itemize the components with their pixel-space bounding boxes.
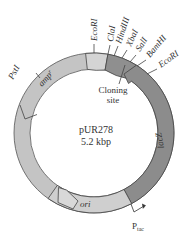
ori-label: ori <box>80 199 91 209</box>
ecori-clai-segment <box>86 53 108 70</box>
ecori-2-tick <box>147 69 157 74</box>
bamhi-tick <box>137 60 146 66</box>
cloning-site-label-line1: Cloning <box>98 85 128 95</box>
hindiii-tick <box>114 46 118 56</box>
lacz-gene-arrow <box>124 65 174 203</box>
plasmid-name: pUR278 <box>79 124 113 135</box>
sali-tick <box>130 55 136 62</box>
ptac-label: Ptac <box>132 221 144 232</box>
plasmid-map: PstI EcoRI ClaI HindIII XbaI SalI BamHI … <box>0 0 191 235</box>
xbai-tick <box>122 50 127 58</box>
ptac-arrowhead <box>142 204 146 209</box>
clai-tick <box>108 45 110 54</box>
psti-label: PstI <box>5 63 22 82</box>
ptac-arrow <box>131 204 144 212</box>
ecori-2-label: EcoRI <box>155 48 181 70</box>
plasmid-size: 5.2 kbp <box>81 136 111 147</box>
cloning-site-label-line2: site <box>107 95 120 105</box>
ecori-1-label: EcoRI <box>89 18 99 42</box>
